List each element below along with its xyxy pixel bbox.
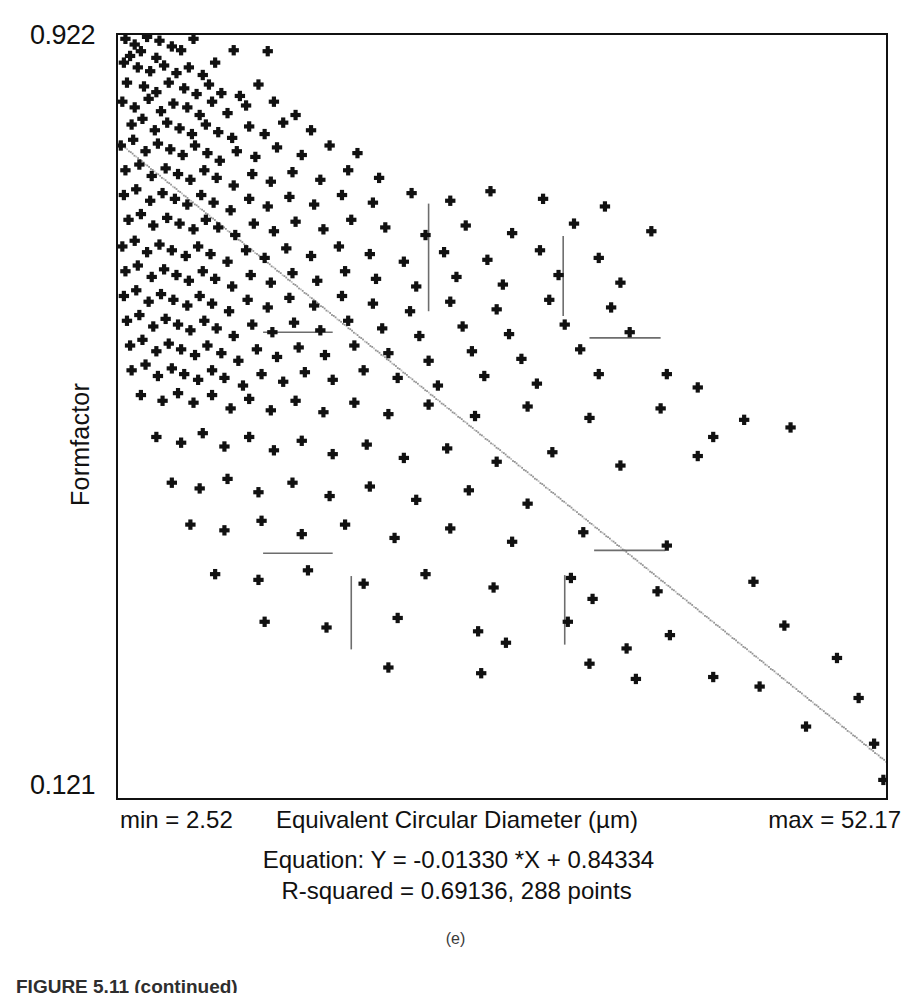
regression-rsquared-text: R-squared = 0.69136, 288 points xyxy=(0,875,911,906)
figure-container: 0.922 0.121 Formfactor min = 2.52 Equiva… xyxy=(0,0,911,993)
y-axis-max-label: 0.922 xyxy=(30,22,95,49)
x-axis-max-label: max = 52.17 xyxy=(768,806,901,834)
regression-stats: Equation: Y = -0.01330 *X + 0.84334 R-sq… xyxy=(0,844,911,906)
x-axis-row: min = 2.52 Equivalent Circular Diameter … xyxy=(116,806,906,838)
y-axis-title: Formfactor xyxy=(66,335,95,555)
subfigure-label: (e) xyxy=(0,930,911,948)
data-points xyxy=(118,35,886,785)
scatter-plot-canvas xyxy=(118,35,886,798)
regression-equation-text: Equation: Y = -0.01330 *X + 0.84334 xyxy=(0,844,911,875)
x-axis-min-label: min = 2.52 xyxy=(120,806,233,834)
y-axis-min-label: 0.121 xyxy=(30,772,95,799)
x-axis-title: Equivalent Circular Diameter (µm) xyxy=(276,806,638,834)
annotation-segments xyxy=(263,204,665,650)
figure-caption: FIGURE 5.11 (continued) xyxy=(16,976,616,993)
plot-area xyxy=(116,33,888,800)
